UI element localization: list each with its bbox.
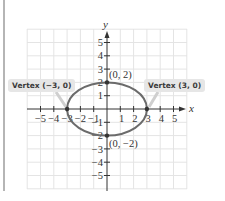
svg-text:−1: −1 [92,117,103,128]
svg-text:1: 1 [119,113,124,124]
svg-text:−2: −2 [75,113,86,124]
svg-text:2: 2 [132,113,137,124]
vertex-left-pointer [56,92,66,107]
ellipse-graph: −5 −4 −3 −2 −1 1 2 3 4 5 5 4 3 2 1 −1 −2… [0,0,225,201]
vertex-right-point [145,107,149,111]
svg-text:5: 5 [98,37,103,48]
x-axis-arrow-icon [179,107,186,112]
co-vertex-top-point [105,80,109,84]
svg-text:−3: −3 [92,144,103,155]
vertex-left-callout: Vertex (−3, 0) [8,79,75,92]
svg-text:−5: −5 [35,113,46,124]
y-axis-label: y [102,18,108,30]
svg-text:−5: −5 [92,170,103,181]
vertex-right-callout: Vertex (3, 0) [144,79,205,92]
svg-text:4: 4 [98,50,104,61]
svg-text:−4: −4 [92,157,104,168]
vertex-right-pointer [149,92,158,107]
co-vertex-top-label: (0, 2) [109,69,132,81]
x-axis-label: x [188,102,194,114]
co-vertex-bottom-label: (0, −2) [109,138,138,150]
svg-text:3: 3 [98,64,103,75]
svg-text:5: 5 [172,113,177,124]
svg-text:−4: −4 [48,113,60,124]
vertex-left-point [65,107,69,111]
svg-text:4: 4 [159,113,165,124]
y-axis-arrow-icon [105,31,110,38]
svg-text:1: 1 [98,90,103,101]
